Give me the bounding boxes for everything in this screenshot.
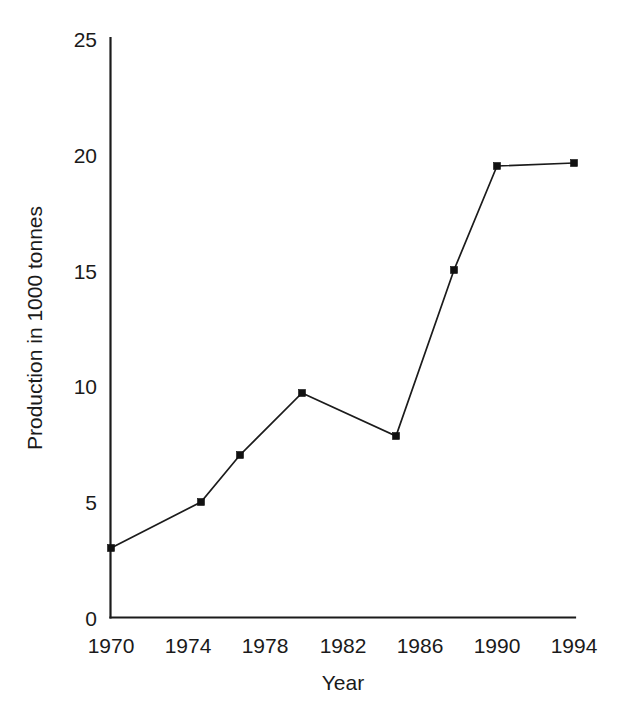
- x-tick-label-1994: 1994: [551, 634, 598, 657]
- y-tick-label-10: 10: [74, 375, 97, 398]
- y-tick-label-5: 5: [85, 491, 97, 514]
- data-point-marker: [451, 267, 458, 274]
- data-point-marker: [198, 499, 205, 506]
- x-tick-label-1978: 1978: [242, 634, 289, 657]
- y-tick-label-20: 20: [74, 144, 97, 167]
- data-series-line: [111, 163, 574, 548]
- x-tick-label-1986: 1986: [397, 634, 444, 657]
- line-chart: 25 20 15 10 5 0 1970 1974 1978 1982 1986…: [0, 0, 622, 711]
- x-tick-label-1990: 1990: [474, 634, 521, 657]
- y-tick-label-15: 15: [74, 260, 97, 283]
- x-tick-label-1970: 1970: [88, 634, 135, 657]
- x-tick-label-1974: 1974: [165, 634, 212, 657]
- data-point-marker: [571, 160, 578, 167]
- y-tick-label-0: 0: [85, 607, 97, 630]
- y-axis-title: Production in 1000 tonnes: [23, 206, 46, 450]
- y-tick-label-25: 25: [74, 28, 97, 51]
- x-tick-label-1982: 1982: [320, 634, 367, 657]
- data-point-marker: [393, 433, 400, 440]
- data-point-marker: [237, 452, 244, 459]
- data-point-marker: [494, 163, 501, 170]
- x-axis-title: Year: [322, 671, 364, 694]
- data-point-marker: [299, 390, 306, 397]
- data-point-marker: [108, 545, 115, 552]
- chart-figure: 25 20 15 10 5 0 1970 1974 1978 1982 1986…: [0, 0, 622, 711]
